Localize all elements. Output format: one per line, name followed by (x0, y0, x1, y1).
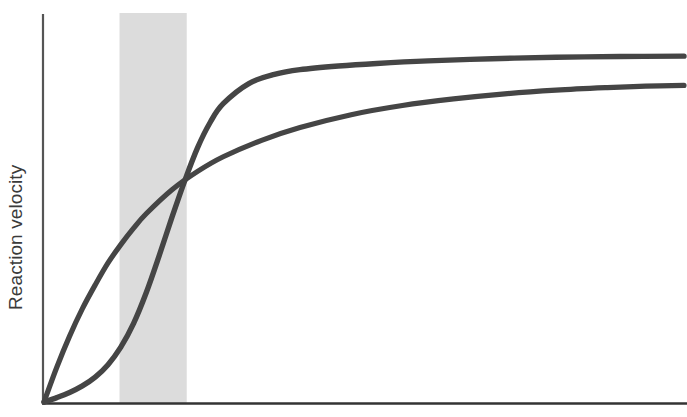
chart-container: Reaction velocity (0, 0, 687, 417)
y-axis-label: Reaction velocity (5, 164, 26, 310)
reaction-velocity-chart: Reaction velocity (0, 0, 687, 417)
